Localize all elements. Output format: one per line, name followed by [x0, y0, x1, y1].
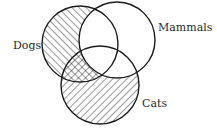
cats-label: Cats [142, 97, 167, 110]
venn-diagram: Dogs Mammals Cats [0, 0, 217, 139]
dogs-label: Dogs [13, 39, 41, 52]
mammals-label: Mammals [158, 21, 213, 34]
